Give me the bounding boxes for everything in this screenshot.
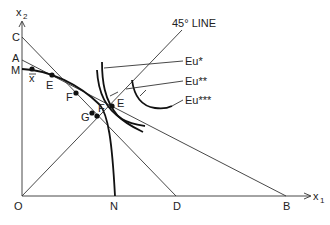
label-fprime: F <box>98 102 105 114</box>
indifference-curve-3 <box>132 80 172 108</box>
line-ab <box>22 60 286 196</box>
point-f <box>73 90 78 95</box>
x-axis-subscript: 1 <box>320 196 325 205</box>
diagram-svg: x 2 x 1 O C A M x E F G F E N D B 45° LI… <box>0 0 330 225</box>
economic-diagram: x 2 x 1 O C A M x E F G F E N D B 45° LI… <box>0 0 330 225</box>
point-fprime <box>94 113 99 118</box>
label-b: B <box>283 200 290 212</box>
origin-label: O <box>14 200 23 212</box>
label-eu2: Eu** <box>185 75 208 87</box>
label-d: D <box>173 200 181 212</box>
leader-eu1 <box>104 61 183 68</box>
frontier-curve <box>22 69 115 196</box>
point-g <box>89 110 94 115</box>
label-f: F <box>66 91 73 103</box>
label-m: M <box>11 64 20 76</box>
y-axis-label: x <box>16 6 22 18</box>
x-axis-label: x <box>313 190 319 202</box>
label-45-line: 45° LINE <box>172 17 216 29</box>
label-eu3: Eu*** <box>185 94 212 106</box>
y-axis-subscript: 2 <box>23 12 28 21</box>
point-eprime <box>109 103 114 108</box>
leader-eu3 <box>172 100 183 106</box>
label-g: G <box>81 111 90 123</box>
point-e <box>49 72 54 77</box>
label-c: C <box>12 31 20 43</box>
label-e: E <box>46 79 53 91</box>
label-eu1: Eu* <box>185 55 203 67</box>
arrow-fprime-icon <box>110 92 118 96</box>
label-a: A <box>12 52 20 64</box>
label-eprime: E <box>117 97 124 109</box>
leader-eu2 <box>126 81 183 89</box>
label-n: N <box>110 200 118 212</box>
point-xbar <box>29 66 34 71</box>
arrow-eprime-icon <box>140 90 146 96</box>
